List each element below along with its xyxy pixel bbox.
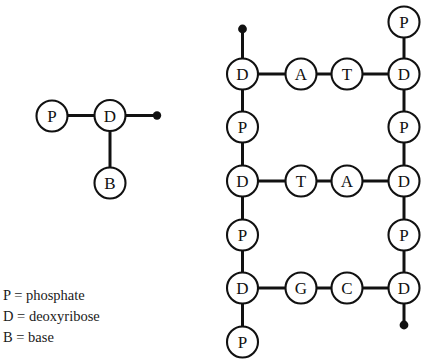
nucleotide-node-deoxyribose: D: [95, 100, 126, 131]
node-label: P: [238, 226, 247, 245]
backbone-node-right-1: D: [389, 59, 420, 90]
node-label: P: [399, 118, 408, 137]
base-node-pair-0-left: A: [286, 59, 317, 90]
node-label: T: [342, 65, 353, 84]
terminal-dot-icon: [238, 25, 247, 34]
node-label: D: [104, 107, 116, 126]
node-label: D: [236, 279, 248, 298]
node-label: T: [296, 172, 307, 191]
legend-line-base: B = base: [3, 329, 54, 345]
backbone-node-right-3: D: [389, 166, 420, 197]
diagram-root: P D B: [0, 0, 430, 362]
node-label: D: [398, 172, 410, 191]
backbone-node-right-5: D: [389, 273, 420, 304]
base-node-pair-1-left: T: [286, 166, 317, 197]
dna-structure-figure: P D B: [0, 0, 430, 362]
backbone-node-right-0: P: [389, 7, 420, 38]
node-label: B: [104, 174, 115, 193]
nucleotide-node-phosphate: P: [37, 101, 68, 132]
symbol-legend: P = phosphate D = deoxyribose B = base: [3, 287, 100, 345]
backbone-node-left-1: P: [227, 112, 258, 143]
legend-line-phosphate: P = phosphate: [3, 287, 85, 303]
backbone-node-right-2: P: [389, 112, 420, 143]
nucleotide-node-base: B: [95, 168, 126, 199]
node-label: P: [47, 107, 56, 126]
backbone-node-left-5: P: [227, 327, 258, 358]
node-label: P: [399, 226, 408, 245]
node-label: A: [295, 65, 308, 84]
terminal-dot-icon: [153, 111, 161, 119]
node-label: A: [341, 172, 354, 191]
backbone-node-right-4: P: [389, 220, 420, 251]
legend-line-deoxyribose: D = deoxyribose: [3, 308, 100, 324]
base-node-pair-0-right: T: [332, 59, 363, 90]
node-label: P: [399, 13, 408, 32]
terminal-dot-icon: [400, 321, 409, 330]
dna-ladder-diagram: D P D P D P: [227, 7, 420, 358]
node-label: D: [236, 172, 248, 191]
node-label: D: [398, 65, 410, 84]
backbone-node-left-2: D: [227, 166, 258, 197]
single-nucleotide-diagram: P D B: [37, 100, 162, 199]
base-node-pair-2-right: C: [332, 273, 363, 304]
node-label: D: [236, 65, 248, 84]
backbone-node-left-4: D: [227, 273, 258, 304]
base-node-pair-2-left: G: [286, 273, 317, 304]
node-label: P: [238, 333, 247, 352]
node-label: D: [398, 279, 410, 298]
node-label: G: [295, 279, 307, 298]
backbone-node-left-3: P: [227, 220, 258, 251]
base-node-pair-1-right: A: [332, 166, 363, 197]
node-label: C: [341, 279, 352, 298]
node-label: P: [238, 118, 247, 137]
backbone-node-left-0: D: [227, 59, 258, 90]
